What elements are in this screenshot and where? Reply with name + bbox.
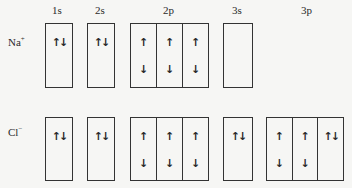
spin-down-icon: ↓	[191, 64, 200, 75]
orbital-cell: ↑↓	[131, 24, 156, 87]
ion-label-na: Na+	[8, 35, 25, 48]
orbital-box-2p: ↑↓↑↓↑↓	[130, 117, 209, 181]
orbital-box-3s: ↑↓	[223, 117, 253, 181]
orbital-box-1s: ↑↓	[45, 23, 73, 88]
electron-pair-icon: ↑↓	[323, 131, 337, 142]
spin-down-icon: ↓	[165, 64, 174, 75]
orbital-cell: ↑↓	[46, 118, 72, 180]
orbital-cell: ↑↓	[224, 118, 252, 180]
orbital-box-3s	[223, 23, 253, 88]
spin-up-icon: ↑	[165, 37, 174, 48]
orbital-cell: ↑↓	[182, 118, 208, 180]
spin-up-icon: ↑	[165, 131, 174, 142]
orbital-cell: ↑↓	[88, 118, 114, 180]
header-2s: 2s	[95, 4, 105, 16]
spin-down-icon: ↓	[275, 158, 284, 169]
orbital-box-1s: ↑↓	[45, 117, 73, 181]
orbital-cell: ↑↓	[292, 118, 318, 180]
orbital-cell: ↑↓	[88, 24, 114, 87]
spin-down-icon: ↓	[300, 158, 309, 169]
orbital-cell: ↑↓	[267, 118, 292, 180]
electron-pair-icon: ↑↓	[52, 37, 66, 48]
orbital-box-2p: ↑↓↑↓↑↓	[130, 23, 209, 88]
spin-up-icon: ↑	[191, 37, 200, 48]
orbital-cell: ↑↓	[317, 118, 343, 180]
orbital-cell: ↑↓	[182, 24, 208, 87]
orbital-cell: ↑↓	[131, 118, 156, 180]
orbital-cell: ↑↓	[156, 24, 182, 87]
orbital-box-2s: ↑↓	[87, 23, 115, 88]
spin-up-icon: ↑	[139, 37, 148, 48]
spin-up-icon: ↑	[139, 131, 148, 142]
electron-pair-icon: ↑↓	[231, 131, 245, 142]
electron-pair-icon: ↑↓	[94, 131, 108, 142]
ion-label-cl: Cl−	[8, 125, 22, 138]
orbital-box-3p: ↑↓↑↓↑↓	[266, 117, 344, 181]
spin-up-icon: ↑	[191, 131, 200, 142]
header-3s: 3s	[232, 4, 242, 16]
header-2p: 2p	[163, 4, 174, 16]
orbital-cell: ↑↓	[46, 24, 72, 87]
orbital-cell	[224, 24, 252, 87]
orbital-box-2s: ↑↓	[87, 117, 115, 181]
electron-pair-icon: ↑↓	[52, 131, 66, 142]
header-3p: 3p	[301, 4, 312, 16]
header-1s: 1s	[52, 4, 62, 16]
spin-down-icon: ↓	[191, 158, 200, 169]
spin-down-icon: ↓	[139, 158, 148, 169]
spin-down-icon: ↓	[165, 158, 174, 169]
orbital-cell: ↑↓	[156, 118, 182, 180]
spin-up-icon: ↑	[300, 131, 309, 142]
spin-down-icon: ↓	[139, 64, 148, 75]
electron-pair-icon: ↑↓	[94, 37, 108, 48]
spin-up-icon: ↑	[275, 131, 284, 142]
